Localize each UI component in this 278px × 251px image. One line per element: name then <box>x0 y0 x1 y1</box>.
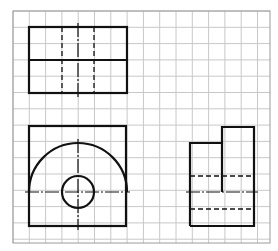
top-view <box>29 23 127 97</box>
drawing-canvas <box>0 0 278 251</box>
